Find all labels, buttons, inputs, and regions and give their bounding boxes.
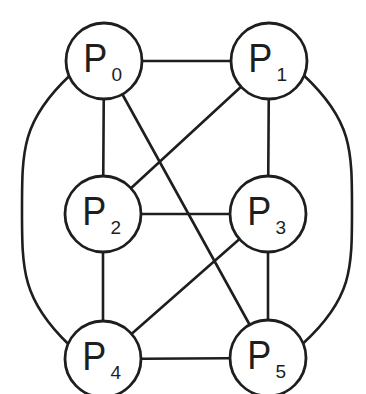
node-p3-circle <box>230 176 306 252</box>
node-p2-circle <box>65 176 141 252</box>
edge-p1-p5 <box>303 75 352 343</box>
node-p1-circle <box>231 23 307 99</box>
node-p4-circle <box>65 321 141 394</box>
edge-p0-p4 <box>22 75 70 344</box>
node-p0-circle <box>66 23 142 99</box>
node-p5-circle <box>230 320 306 394</box>
graph-diagram <box>0 0 366 394</box>
